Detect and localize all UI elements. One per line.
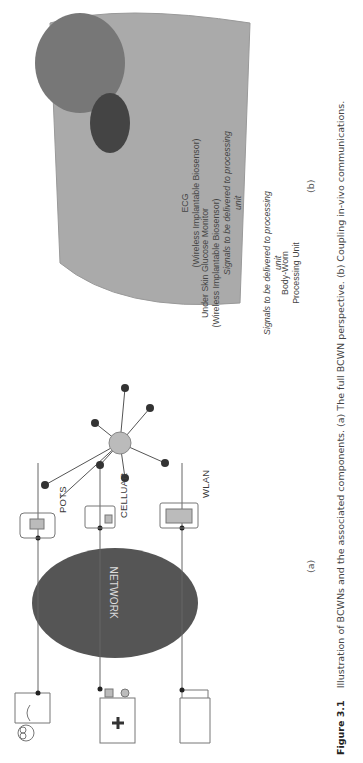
ecg-title: ECG	[180, 103, 191, 303]
bwpu-line1: Body-Worn	[280, 213, 291, 333]
glucose-title: Under Skin Glucose Monitor	[200, 163, 211, 363]
ecg-note-line1: Signals to be delivered to processing	[222, 103, 233, 303]
panel-a-label: (a)	[305, 560, 316, 573]
glucose-subtitle: (Wireless Implantable Biosensor)	[211, 163, 222, 363]
figure-number: Figure 3.1	[335, 700, 346, 755]
gateway-cellular: CELLUAR	[118, 473, 129, 518]
ecg-signal-note: Signals to be delivered to processing un…	[222, 103, 244, 303]
figure-caption: Figure 3.1 Illustration of BCWNs and the…	[335, 101, 346, 755]
ecg-note-line2: unit	[233, 103, 244, 303]
ecg-annotation: ECG (Wireless Implantable Biosensor)	[180, 103, 202, 303]
body-worn-unit-label: Body-Worn Processing Unit	[280, 213, 302, 333]
figure-canvas: NETWORK POTS CELLUAR WLAN Figure 3.1 Ill…	[0, 0, 363, 763]
panel-b-label: (b)	[305, 180, 316, 193]
glucose-note-line1: Signals to be delivered to processing	[262, 163, 273, 363]
gateway-wlan: WLAN	[200, 470, 211, 498]
network-label: NETWORK	[108, 566, 119, 619]
glucose-annotation: Under Skin Glucose Monitor (Wireless Imp…	[200, 163, 222, 363]
caption-text: Illustration of BCWNs and the associated…	[335, 101, 346, 689]
body-cross-section-image	[0, 0, 300, 323]
bwpu-line2: Processing Unit	[291, 213, 302, 333]
gateway-pots: POTS	[57, 486, 68, 513]
